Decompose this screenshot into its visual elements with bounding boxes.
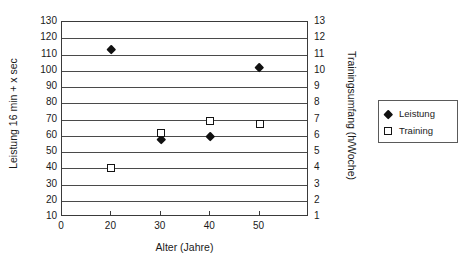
x-axis-tick-label: 50 [244,221,274,231]
x-axis-tick-label: 40 [194,221,224,231]
y-axis-left-tick-label: 110 [23,49,57,59]
data-point-training [107,164,115,172]
x-axis-tick-mark [160,211,161,216]
y-axis-left-tick-label: 10 [23,211,57,221]
gridline-horizontal [62,38,307,39]
y-axis-right-tick-label: 11 [314,49,338,59]
y-axis-right-title: Trainingsumfang (h/Woche) [346,31,357,201]
y-axis-left-tick-label: 20 [23,195,57,205]
y-axis-left-tick-label: 80 [23,97,57,107]
y-axis-right-tick-label: 10 [314,65,338,75]
y-axis-left-tick-label: 50 [23,146,57,156]
x-axis-tick-label: 30 [145,221,175,231]
legend-item-label: Leistung [397,109,435,119]
legend-item-training: Training [379,123,457,139]
data-point-leistung [206,131,215,140]
data-point-training [206,117,214,125]
x-axis-tick-mark [110,211,111,216]
gridline-horizontal [62,136,307,137]
y-axis-right-tick-label: 3 [314,179,338,189]
y-axis-right-ticks: 12345678910111213 [314,0,342,267]
gridline-horizontal [62,55,307,56]
x-axis-tick-mark [259,211,260,216]
x-axis-tick-label: 0 [46,221,76,231]
y-axis-left-tick-label: 100 [23,65,57,75]
legend-item-leistung: Leistung [379,106,457,122]
y-axis-right-tick-label: 9 [314,81,338,91]
data-point-training [157,129,165,137]
x-axis-title: Alter (Jahre) [61,242,308,253]
y-axis-right-tick-label: 2 [314,195,338,205]
plot-area [61,21,308,216]
chart-legend: LeistungTraining [378,100,458,143]
square-icon [379,125,397,137]
x-axis-tick-mark [209,211,210,216]
y-axis-left-tick-label: 120 [23,32,57,42]
y-axis-left-tick-label: 130 [23,16,57,26]
data-point-training [256,120,264,128]
y-axis-right-tick-label: 1 [314,211,338,221]
gridline-horizontal [62,103,307,104]
gridline-horizontal [62,87,307,88]
y-axis-right-tick-label: 13 [314,16,338,26]
y-axis-left-tick-label: 30 [23,179,57,189]
scatter-chart-figure: 102030405060708090100110120130 123456789… [0,0,465,267]
y-axis-left-tick-label: 60 [23,130,57,140]
gridline-horizontal [62,71,307,72]
data-point-leistung [107,45,116,54]
gridline-horizontal [62,120,307,121]
gridline-horizontal [62,152,307,153]
x-axis-tick-label: 20 [95,221,125,231]
y-axis-left-tick-label: 40 [23,162,57,172]
y-axis-right-tick-label: 4 [314,162,338,172]
y-axis-right-tick-label: 8 [314,97,338,107]
y-axis-right-tick-label: 7 [314,114,338,124]
legend-item-label: Training [397,126,433,136]
gridline-horizontal [62,201,307,202]
y-axis-right-tick-label: 12 [314,32,338,42]
diamond-icon [379,108,397,120]
y-axis-right-tick-label: 5 [314,146,338,156]
y-axis-right-tick-label: 6 [314,130,338,140]
gridline-horizontal [62,185,307,186]
gridline-horizontal [62,168,307,169]
y-axis-left-title: Leistung 16 min + x sec [8,39,19,189]
y-axis-left-tick-label: 70 [23,114,57,124]
y-axis-left-tick-label: 90 [23,81,57,91]
